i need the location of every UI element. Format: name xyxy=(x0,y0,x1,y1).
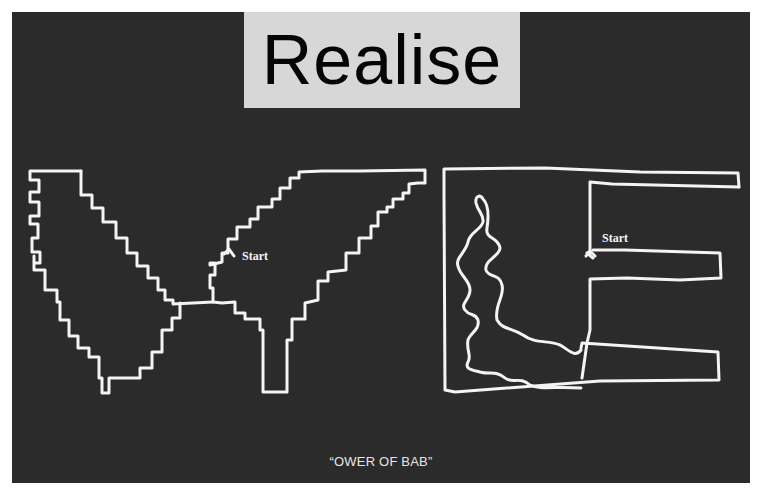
left-start-label: Start xyxy=(242,250,268,262)
left-drawing-right-arm xyxy=(210,170,425,392)
right-start-label: Start xyxy=(602,232,628,244)
left-drawing xyxy=(30,170,425,393)
right-drawing-e-middle-bar xyxy=(582,250,721,378)
figure-caption: “OWER OF BAB” xyxy=(0,454,762,469)
right-drawing-wiggle-line xyxy=(457,196,581,388)
drawing-canvas xyxy=(0,0,762,495)
left-drawing-inner-left-arm xyxy=(81,171,213,304)
right-drawing-e-spine xyxy=(587,182,739,258)
right-drawing xyxy=(444,168,739,392)
